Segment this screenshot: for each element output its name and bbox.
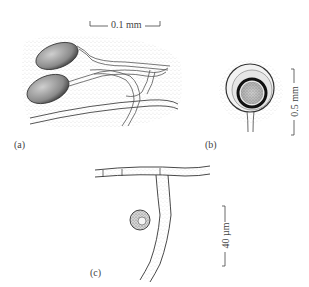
panel-label-a: (a) xyxy=(14,139,25,150)
panel-c-drawing xyxy=(95,166,210,282)
scale-label-b: 0.5 mm xyxy=(289,84,300,120)
panel-b-drawing xyxy=(219,59,283,132)
panel-label-b: (b) xyxy=(205,139,217,150)
illustration-canvas xyxy=(0,0,309,287)
panel-label-c: (c) xyxy=(90,267,101,278)
scale-label-a: 0.1 mm xyxy=(111,19,142,30)
scale-label-c: 40 µm xyxy=(220,220,231,252)
panel-a-drawing xyxy=(22,35,182,129)
figure: 0.1 mm 0.5 mm 40 µm (a) (b) (c) xyxy=(0,0,309,287)
